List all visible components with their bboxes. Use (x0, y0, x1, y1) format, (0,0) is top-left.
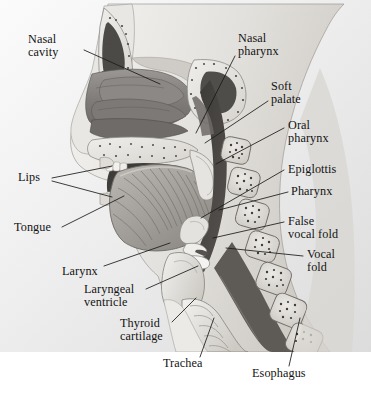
label-soft-palate: Soft palate (271, 80, 301, 107)
vocal-tract-illustration (0, 0, 371, 399)
label-laryngeal-ventricle: Laryngeal ventricle (84, 283, 134, 310)
label-nasal-cavity: Nasal cavity (28, 33, 58, 60)
nasal-cavity (86, 69, 193, 140)
label-esophagus: Esophagus (252, 367, 306, 380)
label-nasal-pharynx: Nasal pharynx (238, 32, 279, 59)
label-thyroid-cartilage: Thyroid cartilage (120, 317, 163, 344)
label-tongue: Tongue (14, 221, 51, 234)
anatomy-figure-page: Nasal cavity Lips Tongue Larynx Laryngea… (0, 0, 371, 399)
label-lips: Lips (18, 171, 40, 184)
label-epiglottis: Epiglottis (288, 163, 336, 176)
label-trachea: Trachea (163, 357, 203, 370)
label-false-vocal-fold: False vocal fold (288, 215, 338, 242)
label-pharynx: Pharynx (291, 185, 332, 198)
label-vocal-fold: Vocal fold (307, 248, 335, 275)
label-oral-pharynx: Oral pharynx (288, 119, 329, 146)
label-larynx: Larynx (62, 265, 98, 278)
